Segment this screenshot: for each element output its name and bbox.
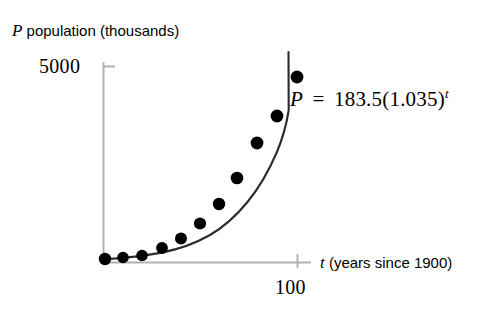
y-axis-label: P population (thousands) xyxy=(12,22,179,39)
data-point xyxy=(117,252,129,264)
data-point xyxy=(251,137,264,150)
data-point xyxy=(136,250,148,262)
equation-lhs: P xyxy=(290,87,303,111)
data-point xyxy=(291,71,304,84)
data-point-group xyxy=(99,71,304,266)
data-point xyxy=(156,242,168,254)
data-point xyxy=(213,198,225,210)
x-axis-tick-label: 100 xyxy=(275,277,306,297)
equation-exponent: t xyxy=(445,86,449,101)
population-growth-chart: P population (thousands) 5000 100 t (yea… xyxy=(0,0,497,318)
equation-equals-sign: = xyxy=(312,87,324,111)
equation-coefficient: 183.5 xyxy=(334,87,382,111)
x-axis-label-text: (years since 1900) xyxy=(329,254,452,271)
data-point xyxy=(194,217,206,229)
y-axis-label-text: population (thousands) xyxy=(27,22,180,39)
data-point xyxy=(231,172,244,185)
data-point xyxy=(271,110,284,123)
y-axis-tick-label: 5000 xyxy=(39,56,80,76)
equation-annotation: P = 183.5(1.035)t xyxy=(290,89,449,110)
data-point xyxy=(99,253,111,265)
equation-base: (1.035) xyxy=(382,87,445,111)
y-axis-variable: P xyxy=(12,21,22,40)
x-axis-label: t (years since 1900) xyxy=(320,254,452,271)
data-point xyxy=(175,233,187,245)
